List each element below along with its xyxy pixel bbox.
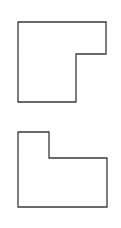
l-shape-bottom — [18, 132, 107, 207]
l-shape-top — [18, 22, 106, 102]
diagram-canvas — [0, 0, 121, 228]
